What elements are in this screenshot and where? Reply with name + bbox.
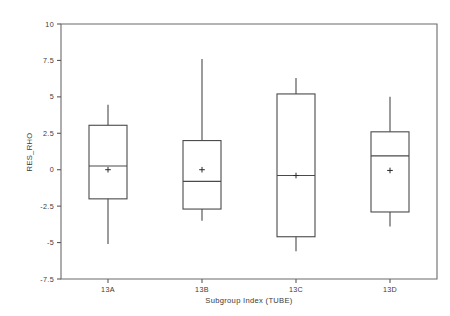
plot-canvas: 107.552.50-2.5-5-7.5 13A13B13C13D Subgro…	[0, 0, 450, 316]
x-tick-label: 13A	[101, 285, 115, 294]
x-axis-title: Subgroup Index (TUBE)	[205, 296, 293, 305]
box-iqr	[89, 125, 127, 199]
box-series	[89, 59, 409, 251]
box-plot-13b	[183, 59, 221, 221]
mean-marker-plus-icon	[293, 173, 299, 179]
y-tick-label: 0	[50, 165, 54, 174]
y-axis-title: RES_RHO	[25, 133, 34, 172]
mean-marker-plus-icon	[199, 167, 205, 173]
box-iqr	[277, 94, 315, 237]
y-tick-label: -7.5	[40, 275, 54, 284]
x-tick-label: 13B	[195, 285, 209, 294]
box-plot-13d	[371, 97, 409, 227]
y-tick-label: 5	[50, 92, 54, 101]
x-axis: 13A13B13C13D	[101, 279, 397, 294]
box-plot-13c	[277, 78, 315, 251]
box-iqr	[183, 141, 221, 209]
plot-frame	[61, 24, 437, 279]
y-tick-label: 7.5	[43, 56, 54, 65]
y-axis: 107.552.50-2.5-5-7.5	[40, 20, 61, 284]
y-tick-label: 2.5	[43, 129, 54, 138]
y-tick-label: 10	[45, 20, 54, 29]
x-tick-label: 13C	[289, 285, 303, 294]
boxplot-figure: 107.552.50-2.5-5-7.5 13A13B13C13D Subgro…	[0, 0, 450, 316]
x-tick-label: 13D	[383, 285, 397, 294]
box-plot-13a	[89, 105, 127, 244]
mean-marker-plus-icon	[105, 167, 111, 173]
mean-marker-plus-icon	[387, 168, 393, 174]
y-tick-label: -5	[47, 238, 54, 247]
y-tick-label: -2.5	[40, 202, 54, 211]
